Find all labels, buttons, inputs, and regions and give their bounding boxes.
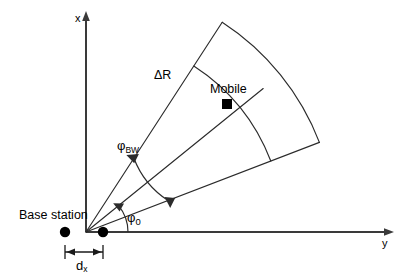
beam-center-ray [86, 89, 263, 233]
phibw-arrowhead-upper [126, 154, 138, 163]
y-axis-arrowhead [384, 228, 394, 236]
phi-0-label: φ0 [127, 211, 141, 227]
mobile-marker-square [222, 99, 232, 109]
phi-bw-label: φBW [117, 139, 139, 155]
diagram-figure: x y Base station Mobile ΔR φBW φ0 dx [0, 0, 409, 280]
axis-group [82, 11, 394, 236]
base-station-label: Base station [19, 209, 88, 222]
phibw-arrowhead-lower [165, 197, 176, 208]
diagram-canvas [0, 0, 409, 280]
spacing-dimension-group [65, 245, 103, 259]
x-axis-label: x [75, 13, 81, 24]
phi-bw-subscript: BW [125, 145, 139, 155]
mobile-label: Mobile [210, 83, 247, 96]
beam-sector-group [86, 22, 319, 232]
delta-r-label: ΔR [154, 69, 171, 82]
y-axis-label: y [382, 238, 388, 249]
dx-arrowhead-left [67, 248, 76, 255]
dx-label: dx [76, 259, 87, 274]
antenna-element-right-dot [98, 227, 108, 237]
beam-upper-ray [86, 22, 222, 232]
dx-subscript: x [83, 264, 87, 274]
antenna-element-left-dot [60, 227, 70, 237]
phi-0-subscript: 0 [135, 216, 140, 227]
dx-arrowhead-right [93, 248, 102, 255]
x-axis-arrowhead [82, 11, 90, 21]
beam-lower-ray [86, 142, 319, 232]
phibw-angle-group [126, 154, 175, 208]
antenna-elements-group [60, 227, 108, 237]
